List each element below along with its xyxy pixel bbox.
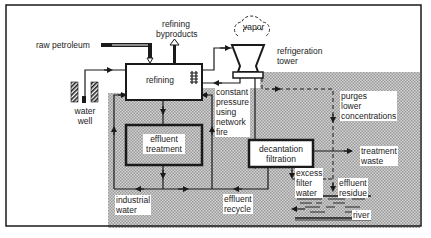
label-purges-lower-concentrations: purges lower concentrations — [340, 91, 397, 121]
label-line: refining — [156, 19, 196, 29]
label-refining-byproducts: refining byproducts — [156, 19, 196, 39]
label-effluent-treatment: effluent treatment — [143, 134, 185, 154]
label-line: recycle — [224, 204, 252, 214]
label-line: industrial — [116, 195, 150, 205]
label-line: effluent — [144, 134, 184, 144]
label-line: decantation — [252, 144, 310, 154]
label-line: using — [216, 107, 249, 117]
label-decantation-filtration: decantation filtration — [252, 144, 310, 164]
label-line: network — [216, 117, 249, 127]
label-treatment-waste: treatment waste — [360, 146, 398, 166]
label-vapor: vapor — [243, 22, 264, 32]
raw-petroleum-pipe — [101, 43, 153, 63]
label-line: effluent — [339, 178, 367, 188]
label-constant-pressure: constant pressure using network fire — [215, 87, 250, 137]
label-line: water — [296, 188, 322, 198]
label-effluent-residue: effluent residue — [338, 178, 368, 198]
label-refrigeration-tower: refrigeration tower — [277, 46, 322, 66]
label-line: tower — [277, 56, 322, 66]
label-line: excess — [296, 168, 322, 178]
byproducts-arrow — [170, 39, 179, 64]
label-raw-petroleum: raw petroleum — [36, 40, 90, 50]
label-line: waste — [361, 156, 397, 166]
refining-to-tower-line — [202, 48, 232, 70]
label-line: fire — [216, 127, 249, 137]
label-river: river — [352, 210, 371, 220]
label-line: well — [71, 116, 99, 126]
label-effluent-recycle: effluent recycle — [223, 194, 253, 214]
label-line: concentrations — [341, 111, 396, 121]
label-line: refrigeration — [277, 46, 322, 56]
label-line: byproducts — [156, 29, 196, 39]
label-line: constant — [216, 87, 249, 97]
label-line: purges — [341, 91, 396, 101]
refrigeration-tower-icon — [232, 45, 264, 78]
label-line: lower — [341, 101, 396, 111]
label-line: filter — [296, 178, 322, 188]
label-refining: refining — [146, 75, 174, 85]
label-line: residue — [339, 188, 367, 198]
label-line: water — [116, 205, 150, 215]
label-line: effluent — [224, 194, 252, 204]
label-line: treatment — [144, 144, 184, 154]
label-line: pressure — [216, 97, 249, 107]
label-line: treatment — [361, 146, 397, 156]
label-line: water — [71, 106, 99, 116]
label-excess-filter-water: excess filter water — [295, 168, 323, 198]
label-line: filtration — [252, 154, 310, 164]
label-water-well: water well — [71, 106, 99, 126]
label-industrial-water: industrial water — [115, 195, 151, 215]
